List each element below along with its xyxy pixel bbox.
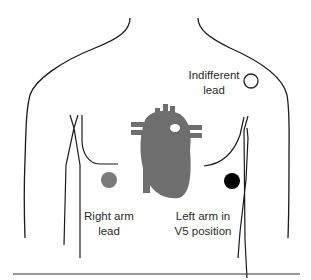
heart-icon bbox=[131, 104, 202, 198]
torso-outline-left bbox=[24, 18, 130, 238]
left-arm-lead-label: Left arm in V5 position bbox=[168, 209, 238, 239]
label-line: Indifferent bbox=[176, 68, 252, 83]
right-arm-lead-label: Right arm lead bbox=[76, 209, 142, 239]
right-arm-electrode bbox=[101, 172, 117, 188]
left-armpit bbox=[204, 116, 248, 278]
label-line: Left arm in bbox=[168, 209, 238, 224]
label-line: V5 position bbox=[168, 224, 238, 239]
label-line: Right arm bbox=[76, 209, 142, 224]
left-arm-electrode bbox=[224, 173, 240, 189]
indifferent-lead-label: Indifferent lead bbox=[176, 68, 252, 98]
label-line: lead bbox=[176, 83, 252, 98]
label-line: lead bbox=[76, 224, 142, 239]
torso-diagram bbox=[0, 0, 311, 280]
